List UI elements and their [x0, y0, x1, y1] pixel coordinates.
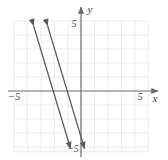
line-2 [48, 26, 85, 149]
x-axis-label: x [152, 92, 158, 104]
graph-svg: −5 5 5 −5 y x [0, 0, 168, 160]
axis-lines [8, 7, 158, 157]
coordinate-plane-figure: −5 5 5 −5 y x [0, 0, 168, 160]
y-tick-label-five: 5 [71, 18, 76, 29]
line-1 [34, 26, 71, 149]
y-axis-label: y [87, 3, 93, 15]
y-tick-label-negative-five: −5 [67, 144, 78, 154]
x-tick-label-five: 5 [137, 91, 142, 102]
x-tick-label-negative-five: −5 [8, 91, 20, 102]
axis-name-labels: y x [87, 3, 158, 104]
